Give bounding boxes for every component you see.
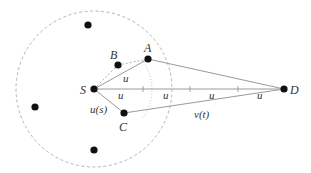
label-u-s: u(s) — [90, 103, 107, 116]
node-unlabeled — [31, 103, 38, 110]
label-u-seg2: u — [163, 89, 169, 101]
label-u-sa: u — [123, 72, 129, 84]
label-u-seg4: u — [257, 89, 263, 101]
edge-s-b-dashed — [94, 65, 118, 89]
diagram-canvas: S D A B C u u u u u u(s) v(t) — [0, 0, 311, 173]
label-s: S — [80, 83, 86, 97]
node-d — [280, 85, 287, 92]
label-b: B — [110, 48, 118, 62]
node-unlabeled — [84, 21, 91, 28]
node-c — [120, 109, 127, 116]
node-s — [90, 85, 97, 92]
node-unlabeled — [90, 146, 97, 153]
label-v-t: v(t) — [194, 108, 210, 121]
label-u-seg3: u — [209, 89, 215, 101]
label-a: A — [143, 41, 152, 55]
node-b — [114, 61, 121, 68]
node-a — [144, 55, 151, 62]
label-u-seg1: u — [118, 89, 124, 101]
label-d: D — [289, 83, 299, 97]
label-c: C — [119, 120, 128, 134]
edge-a-d — [148, 59, 284, 89]
